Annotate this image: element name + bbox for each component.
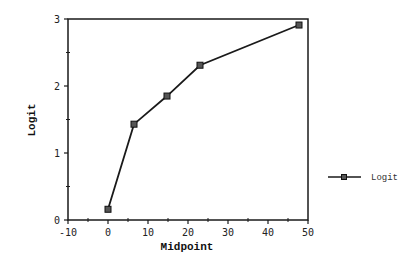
x-axis-title: Midpoint (161, 241, 214, 253)
x-tick-label: 50 (302, 227, 314, 238)
legend-label: Logit (371, 173, 398, 183)
y-tick-label: 2 (54, 81, 60, 92)
data-point-square-marker (164, 93, 170, 99)
x-tick-label: 0 (105, 227, 111, 238)
x-tick-label: 20 (182, 227, 194, 238)
x-tick-label: 40 (262, 227, 274, 238)
series-layer (105, 22, 302, 212)
legend-square-marker-icon (342, 175, 347, 180)
y-axis-title: Logit (26, 103, 38, 136)
x-tick-label: -10 (59, 227, 77, 238)
x-axis: -1001020304050 (59, 218, 314, 238)
line-chart: -1001020304050 0123 Midpoint Logit Logit (0, 0, 418, 265)
plot-frame (68, 19, 308, 220)
y-tick-label: 3 (54, 14, 60, 25)
plot-border (68, 19, 308, 220)
y-tick-label: 0 (54, 215, 60, 226)
data-point-square-marker (131, 121, 137, 127)
y-tick-label: 1 (54, 148, 60, 159)
data-point-square-marker (105, 206, 111, 212)
legend: Logit (328, 173, 398, 183)
data-point-square-marker (197, 62, 203, 68)
series-line (108, 25, 299, 209)
x-tick-label: 10 (142, 227, 154, 238)
x-tick-label: 30 (222, 227, 234, 238)
data-point-square-marker (296, 22, 302, 28)
